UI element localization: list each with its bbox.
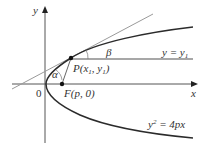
- line-label: y = y1: [161, 46, 188, 60]
- y-axis-arrow-icon: [42, 6, 48, 13]
- curve-equation-label: y2 = 4px: [147, 118, 185, 130]
- origin-label: 0: [36, 87, 42, 99]
- beta-arc: [86, 50, 88, 59]
- alpha-label: α: [52, 68, 58, 80]
- beta-label: β: [105, 46, 112, 58]
- x-axis-label: x: [190, 87, 196, 99]
- parabola-diagram: y x 0 P(x1, y1) F(p, 0) α β y = y1 y2 = …: [0, 0, 208, 149]
- y-axis-label: y: [32, 4, 38, 16]
- point-focus: [60, 82, 64, 86]
- point-p: [69, 56, 73, 60]
- focus-label: F(p, 0): [63, 87, 95, 100]
- point-p-label: P(x1, y1): [72, 62, 110, 76]
